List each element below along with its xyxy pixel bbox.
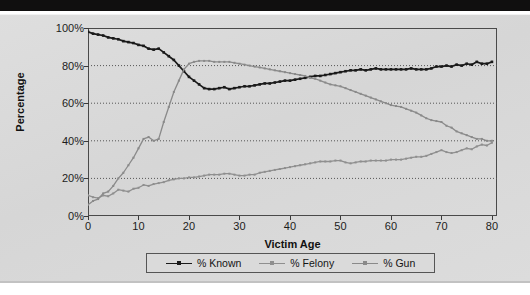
plot-area <box>88 28 497 216</box>
legend-swatch-icon <box>166 259 192 268</box>
series-marker <box>450 65 453 68</box>
panel-top-edge <box>0 14 530 15</box>
series-marker <box>466 134 468 136</box>
series-marker <box>254 174 256 176</box>
series-marker <box>415 112 417 114</box>
series-marker <box>400 106 402 108</box>
series-marker <box>329 73 332 76</box>
series-marker <box>360 93 362 95</box>
series-marker <box>319 160 321 162</box>
x-axis-tick-label: 60 <box>371 220 411 232</box>
series-marker <box>334 72 337 75</box>
series-marker <box>491 142 493 144</box>
series-marker <box>385 160 387 162</box>
series-marker <box>248 85 251 88</box>
series-marker <box>456 130 458 132</box>
x-axis-tick-label: 10 <box>118 220 158 232</box>
series-marker <box>157 47 160 50</box>
series-marker <box>466 147 468 149</box>
series-marker <box>203 87 206 90</box>
series-marker <box>218 87 221 90</box>
y-axis-tick-label: 100% <box>48 22 84 34</box>
series-marker <box>97 198 99 200</box>
series-marker <box>299 77 302 80</box>
series-marker <box>243 85 246 88</box>
series-marker <box>445 64 448 67</box>
series-marker <box>122 172 124 174</box>
series-marker <box>294 165 296 167</box>
series-marker <box>440 121 442 123</box>
series-marker <box>319 80 321 82</box>
series-marker <box>420 156 422 158</box>
series-marker <box>400 159 402 161</box>
x-axis-tick-mark <box>492 216 493 220</box>
legend-item[interactable]: % Known <box>166 257 241 269</box>
series-marker <box>88 30 89 33</box>
series-marker <box>486 62 489 65</box>
series-marker <box>223 86 226 89</box>
series-marker <box>228 61 230 63</box>
y-axis-tick-mark <box>84 28 89 29</box>
series-marker <box>294 73 296 75</box>
series-marker <box>405 158 407 160</box>
series-marker <box>446 151 448 153</box>
series-marker <box>274 69 276 71</box>
series-marker <box>213 61 215 63</box>
series-marker <box>142 45 145 48</box>
series-marker <box>193 61 195 63</box>
series-marker <box>350 162 352 164</box>
series-marker <box>465 62 468 65</box>
series-marker <box>294 78 297 81</box>
series-marker <box>264 67 266 69</box>
series-marker <box>364 69 367 72</box>
series-marker <box>385 102 387 104</box>
x-axis-tick-label: 0 <box>68 220 108 232</box>
series-marker <box>203 175 205 177</box>
series-marker <box>188 76 191 79</box>
series-marker <box>88 194 89 196</box>
series-line <box>88 143 492 198</box>
legend-swatch-icon <box>352 259 378 268</box>
x-axis-title: Victim Age <box>88 238 497 250</box>
series-marker <box>390 159 392 161</box>
series-marker <box>425 68 428 71</box>
series-marker <box>163 181 165 183</box>
series-marker <box>354 69 357 72</box>
series-marker <box>365 160 367 162</box>
series-marker <box>420 68 423 71</box>
series-marker <box>117 189 119 191</box>
series-marker <box>435 65 438 68</box>
series-marker <box>117 177 119 179</box>
series-marker <box>460 64 463 67</box>
series-marker <box>233 174 235 176</box>
series-marker <box>324 82 326 84</box>
series-marker <box>162 51 165 54</box>
series-marker <box>345 87 347 89</box>
series-marker <box>334 84 336 86</box>
legend-item[interactable]: % Felony <box>259 257 334 269</box>
legend-label: % Gun <box>383 257 415 269</box>
cropped-title-strip <box>0 0 530 11</box>
series-marker <box>410 157 412 159</box>
series-marker <box>380 160 382 162</box>
series-marker <box>279 168 281 170</box>
y-axis-tick-labels: 0%20%40%60%80%100% <box>38 28 84 216</box>
series-marker <box>309 77 311 79</box>
series-marker <box>451 152 453 154</box>
series-marker <box>153 183 155 185</box>
series-marker <box>390 68 393 71</box>
series-marker <box>345 161 347 163</box>
series-marker <box>339 160 341 162</box>
series-marker <box>355 161 357 163</box>
series-marker <box>268 82 271 85</box>
series-marker <box>304 163 306 165</box>
series-marker <box>259 66 261 68</box>
series-marker <box>137 147 139 149</box>
series-marker <box>163 121 165 123</box>
series-marker <box>471 148 473 150</box>
series-marker <box>339 71 342 74</box>
legend-item[interactable]: % Gun <box>352 257 415 269</box>
series-marker <box>269 68 271 70</box>
y-axis-tick-mark <box>84 103 89 104</box>
series-marker <box>486 145 488 147</box>
